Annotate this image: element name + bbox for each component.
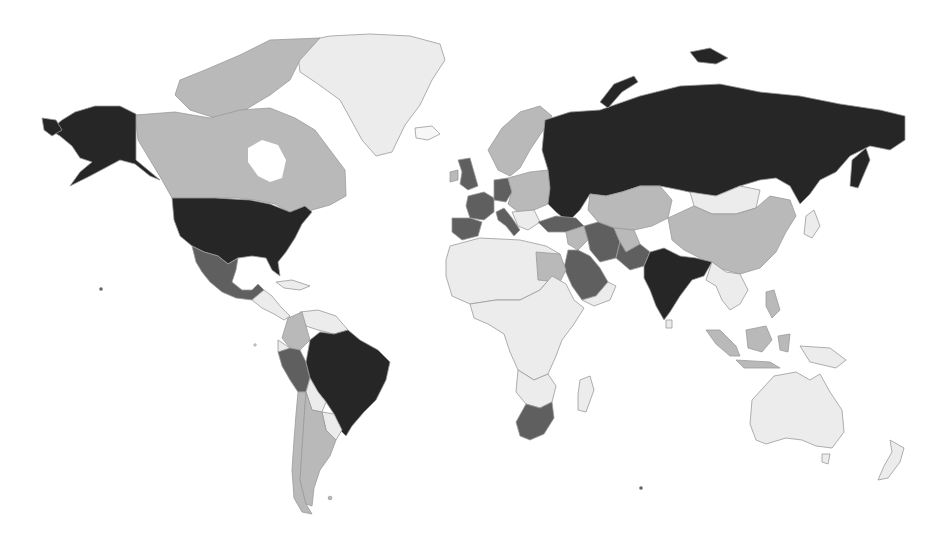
country-indonesia-java	[736, 360, 780, 368]
world-choropleth-map	[0, 0, 950, 539]
country-spain-portugal	[452, 218, 482, 240]
country-new-guinea	[800, 346, 846, 368]
country-tasmania	[822, 454, 830, 464]
island-galapagos	[254, 344, 256, 346]
country-canada-arctic-islands	[175, 38, 320, 118]
country-ireland	[450, 170, 458, 182]
country-peru	[278, 348, 310, 392]
country-philippines	[766, 290, 780, 318]
country-korea-japan	[804, 210, 820, 238]
country-iceland	[415, 126, 440, 140]
country-russia-north-islands	[690, 48, 728, 64]
island-hawaii	[99, 287, 102, 290]
country-sri-lanka	[666, 320, 672, 328]
country-scandinavia	[488, 106, 552, 176]
country-indonesia-sulawesi	[778, 334, 790, 352]
country-australia	[750, 372, 844, 448]
country-united-kingdom	[458, 158, 478, 190]
country-indonesia-borneo	[746, 326, 772, 352]
country-france	[466, 192, 494, 220]
country-new-zealand	[878, 440, 904, 480]
island-falklands	[328, 496, 332, 500]
country-south-africa	[516, 402, 554, 440]
country-eastern-europe	[508, 170, 550, 212]
island-kerguelen	[639, 486, 642, 489]
country-indonesia-sumatra	[706, 330, 740, 356]
country-madagascar	[578, 376, 594, 412]
country-cuba	[276, 280, 310, 290]
